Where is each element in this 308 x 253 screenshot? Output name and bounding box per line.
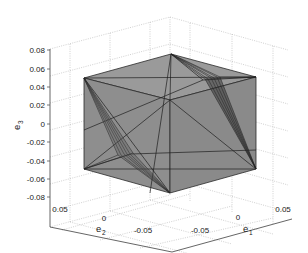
- e3-tick-4: 0: [41, 120, 46, 129]
- svg-text:e: e: [11, 125, 22, 130]
- e1-tick-0: -0.05: [191, 226, 210, 235]
- e1-axis-label: e 1: [243, 223, 253, 236]
- svg-text:3: 3: [17, 120, 24, 124]
- e1-tick-1: 0: [236, 213, 241, 222]
- e3-tick-5: -0.02: [27, 138, 46, 147]
- e3-axis-label: e 3: [11, 120, 24, 130]
- e3-tick-6: -0.04: [27, 157, 46, 166]
- e3-tick-3: 0.02: [29, 101, 45, 110]
- e3-tick-2: 0.04: [29, 83, 45, 92]
- e1-tick-labels: -0.05 0 0.05: [191, 205, 291, 235]
- svg-text:e: e: [96, 223, 101, 234]
- e2-tick-2: -0.05: [134, 226, 153, 235]
- e3-tick-0: 0.08: [29, 46, 45, 55]
- e1-tick-2: 0.05: [275, 205, 291, 214]
- e2-tick-0: 0.05: [52, 205, 68, 214]
- e3-tick-7: -0.06: [27, 175, 46, 184]
- e2-axis-label: e 2: [96, 223, 106, 236]
- e3-tick-8: -0.08: [27, 193, 46, 202]
- svg-text:2: 2: [102, 229, 106, 236]
- svg-text:e: e: [243, 223, 248, 234]
- e3-tick-labels: 0.08 0.06 0.04 0.02 0 -0.02 -0.04 -0.06 …: [27, 46, 46, 202]
- e2-tick-1: 0: [102, 214, 107, 223]
- cube-3d-plot: 0.08 0.06 0.04 0.02 0 -0.02 -0.04 -0.06 …: [0, 0, 308, 253]
- e3-tick-1: 0.06: [29, 65, 45, 74]
- svg-text:1: 1: [249, 229, 253, 236]
